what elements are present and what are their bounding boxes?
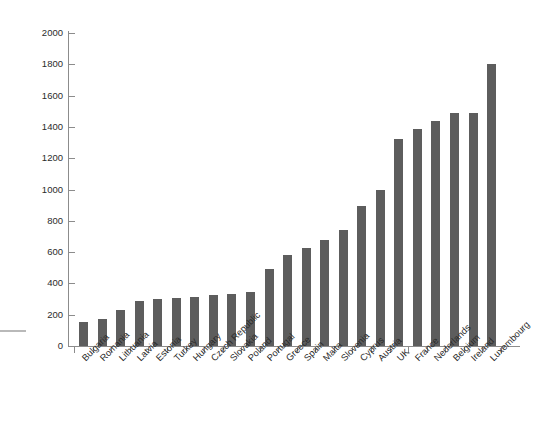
y-axis-tick-label-wrap: 800 bbox=[0, 216, 63, 226]
y-axis-tick bbox=[68, 158, 75, 159]
y-axis-tick-label-wrap: 600 bbox=[0, 247, 63, 257]
y-axis-tick-label-wrap: 400 bbox=[0, 278, 63, 288]
y-axis-tick bbox=[68, 190, 75, 191]
bar bbox=[357, 206, 366, 346]
y-axis-tick bbox=[68, 315, 75, 316]
y-axis-tick bbox=[68, 33, 75, 34]
y-axis-tick-label: 800 bbox=[47, 216, 63, 226]
bar bbox=[302, 248, 311, 346]
bar bbox=[376, 190, 385, 346]
bar bbox=[320, 240, 329, 346]
y-axis-tick-label-wrap: 200 bbox=[0, 310, 63, 320]
x-axis-tick bbox=[74, 347, 75, 353]
y-axis-tick-label: 400 bbox=[47, 278, 63, 288]
y-axis-tick-label-wrap: 1000 bbox=[0, 185, 63, 195]
y-axis-tick bbox=[68, 96, 75, 97]
y-axis-tick-label: 1200 bbox=[42, 153, 63, 163]
y-axis-tick bbox=[68, 221, 75, 222]
y-axis-tick bbox=[68, 64, 75, 65]
y-axis-tick-label: 1800 bbox=[42, 59, 63, 69]
bar bbox=[339, 230, 348, 346]
bar bbox=[413, 129, 422, 346]
left-edge-marker bbox=[0, 330, 26, 332]
y-axis-tick-label: 200 bbox=[47, 310, 63, 320]
y-axis-tick bbox=[68, 283, 75, 284]
y-axis-tick-label-wrap: 1800 bbox=[0, 59, 63, 69]
bar bbox=[79, 322, 88, 346]
bar-chart: 0200400600800100012001400160018002000 Bu… bbox=[0, 0, 537, 427]
y-axis-tick bbox=[68, 127, 75, 128]
y-axis-tick-label: 600 bbox=[47, 247, 63, 257]
bar bbox=[450, 113, 459, 346]
y-axis-tick-label: 1000 bbox=[42, 185, 63, 195]
y-axis-tick bbox=[68, 252, 75, 253]
y-axis-tick-label-wrap: 0 bbox=[0, 341, 63, 351]
y-axis-tick-label: 1400 bbox=[42, 122, 63, 132]
y-axis-tick-label-wrap: 2000 bbox=[0, 28, 63, 38]
y-axis-tick-label-wrap: 1600 bbox=[0, 91, 63, 101]
bar bbox=[487, 64, 496, 346]
y-axis-tick-label-wrap: 1200 bbox=[0, 153, 63, 163]
y-axis-tick-label: 2000 bbox=[42, 28, 63, 38]
bar bbox=[153, 299, 162, 346]
bar bbox=[431, 121, 440, 346]
y-axis-tick-label: 0 bbox=[58, 341, 63, 351]
bar bbox=[469, 113, 478, 346]
y-axis-tick-label-wrap: 1400 bbox=[0, 122, 63, 132]
y-axis-tick-label: 1600 bbox=[42, 91, 63, 101]
bar bbox=[394, 139, 403, 346]
